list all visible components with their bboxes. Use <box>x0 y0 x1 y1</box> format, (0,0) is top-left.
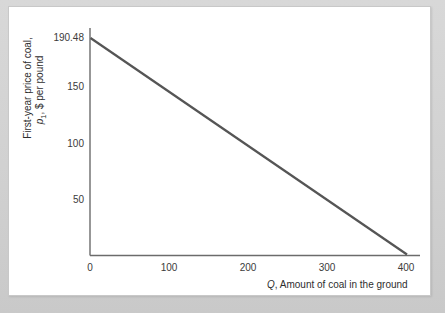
x-axis-title: Q, Amount of coal in the ground <box>267 279 408 290</box>
y-axis-title-line2: p1, $ per pound <box>34 56 48 126</box>
demand-curve <box>91 38 408 255</box>
x-tick-label-300: 300 <box>319 262 336 273</box>
x-tick-label-400: 400 <box>398 262 415 273</box>
y-tick-label-100: 100 <box>67 138 84 149</box>
x-tick-label-200: 200 <box>240 262 257 273</box>
y-axis-title-line1: First-year price of coal, <box>22 37 33 139</box>
x-axis-title-rest: , Amount of coal in the ground <box>275 279 408 290</box>
y-tick-label-150: 150 <box>67 81 84 92</box>
y-tick-label-190: 190.48 <box>53 32 84 43</box>
y-axis-title: First-year price of coal, p1, $ per poun… <box>22 37 48 139</box>
x-tick-label-0: 0 <box>87 262 93 273</box>
y-tick-label-50: 50 <box>73 194 85 205</box>
y-axis-title-rest: , $ per pound <box>34 56 45 115</box>
line-chart: 190.48 150 100 50 0 100 200 300 400 Firs… <box>0 0 445 313</box>
page-background: 190.48 150 100 50 0 100 200 300 400 Firs… <box>0 0 445 313</box>
x-tick-label-100: 100 <box>161 262 178 273</box>
